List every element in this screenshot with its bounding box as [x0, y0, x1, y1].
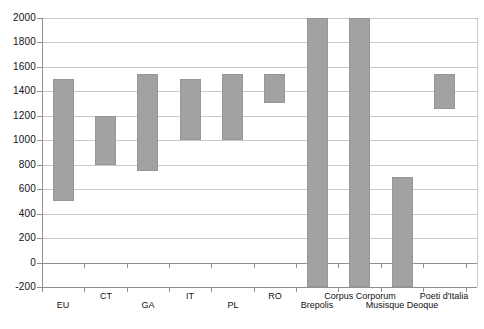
- category-tick-zero-line: [211, 264, 212, 268]
- category-tick-zero-line: [84, 264, 85, 268]
- x-category-label: EU: [57, 300, 70, 311]
- range-bar: [95, 116, 116, 165]
- y-tick-label: 1400: [4, 85, 36, 97]
- category-tick-zero-line: [423, 264, 424, 268]
- category-tick-zero-line: [127, 264, 128, 268]
- category-tick-zero-line: [338, 264, 339, 268]
- range-bar: [307, 18, 328, 287]
- gridline: [42, 42, 477, 43]
- y-tick-label: 1200: [4, 110, 36, 122]
- x-category-label: PL: [227, 300, 238, 311]
- y-tick-label: 2000: [4, 12, 36, 24]
- gridline: [42, 165, 477, 166]
- range-bar: [392, 177, 413, 287]
- range-bar: [264, 74, 285, 103]
- plot-right-border: [477, 18, 478, 287]
- category-tick-bottom: [254, 288, 255, 292]
- x-category-label: GA: [141, 300, 154, 311]
- category-tick-bottom: [169, 288, 170, 292]
- range-bar: [137, 74, 158, 171]
- range-bar: [434, 74, 455, 109]
- category-tick-zero-line: [254, 264, 255, 268]
- y-tick-label: 1600: [4, 61, 36, 73]
- category-tick-bottom: [296, 288, 297, 292]
- category-tick-bottom: [42, 288, 43, 292]
- x-category-label: RO: [268, 291, 282, 302]
- category-tick-zero-line: [296, 264, 297, 268]
- bottom-axis-line: [42, 287, 477, 288]
- y-tick-label: 1000: [4, 134, 36, 146]
- category-tick-zero-line: [169, 264, 170, 268]
- gridline: [42, 18, 477, 19]
- x-category-label: IT: [186, 291, 194, 302]
- range-bar-chart: 2000180016001400120010008006004002000-20…: [0, 0, 484, 329]
- category-tick-bottom: [211, 288, 212, 292]
- category-tick-zero-line: [466, 264, 467, 268]
- y-tick-label: 400: [4, 208, 36, 220]
- gridline: [42, 67, 477, 68]
- category-tick-zero-line: [381, 264, 382, 268]
- y-tick-label: 1800: [4, 36, 36, 48]
- range-bar: [180, 79, 201, 140]
- category-tick-bottom: [127, 288, 128, 292]
- y-tick-label: 0: [4, 257, 36, 269]
- category-tick-zero-line: [42, 264, 43, 268]
- range-bar: [222, 74, 243, 140]
- range-bar: [349, 18, 370, 287]
- gridline: [42, 91, 477, 92]
- y-axis-line: [42, 18, 43, 291]
- y-tick-label: 800: [4, 159, 36, 171]
- x-category-label: Poeti d'Italia: [420, 291, 469, 302]
- y-tick-label: 200: [4, 232, 36, 244]
- category-tick-bottom: [84, 288, 85, 292]
- y-tick-label: -200: [4, 281, 36, 293]
- x-category-label: CT: [100, 291, 112, 302]
- range-bar: [53, 79, 74, 201]
- y-tick-label: 600: [4, 183, 36, 195]
